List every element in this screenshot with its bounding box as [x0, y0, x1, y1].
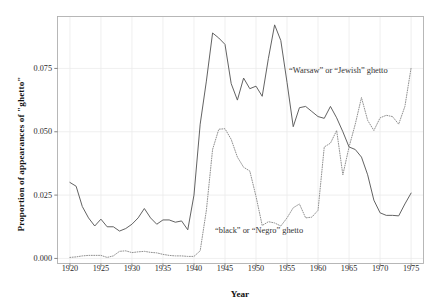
series-line-warsaw-jewish: [70, 25, 411, 231]
y-tick-label: 0.025: [20, 191, 52, 200]
y-tick-label: 0.000: [20, 254, 52, 263]
ghetto-proportion-line-chart: Proportion of appearances of "ghetto" Ye…: [0, 0, 445, 308]
axis-ticks-group: [54, 68, 411, 266]
x-axis-tick-labels: 1920192519301935194019451950195519601965…: [0, 264, 445, 278]
series-annotation-black-negro: “black” or “Negro” ghetto: [215, 226, 303, 236]
series-annotation-warsaw-jewish: “Warsaw” or “Jewish” ghetto: [289, 66, 388, 76]
y-tick-label: 0.075: [20, 64, 52, 73]
x-axis-title: Year: [57, 288, 423, 300]
y-tick-label: 0.050: [20, 127, 52, 136]
plot-area: [0, 0, 445, 308]
y-axis-tick-labels: 0.0000.0250.0500.075: [18, 0, 52, 308]
x-tick-label: 1975: [391, 264, 431, 274]
data-series-group: [70, 25, 411, 258]
